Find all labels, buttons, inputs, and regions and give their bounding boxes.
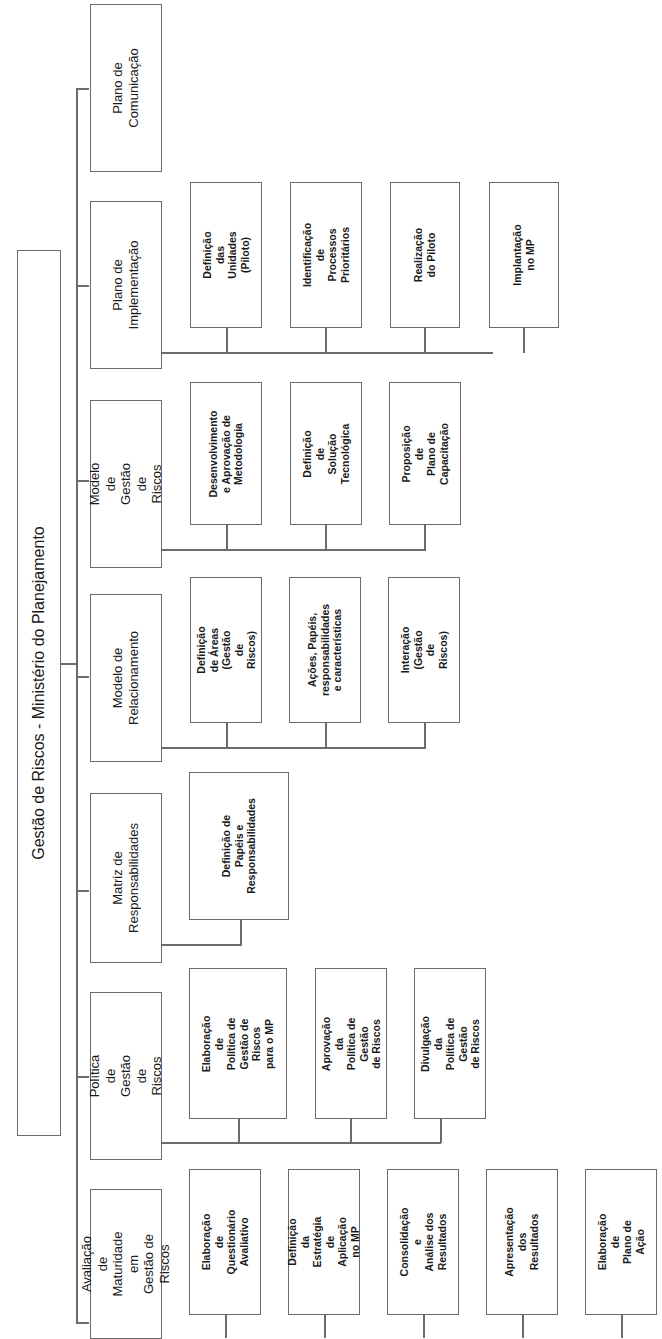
child-stub	[238, 1118, 240, 1143]
task-node: Ações, Papéis, responsabilidades e carac…	[289, 577, 361, 723]
task-label: Definição de Papéis e Responsabilidades	[220, 798, 258, 894]
branch-label: Plano de Implementação	[110, 241, 141, 330]
task-label: Elaboração de Plano de Ação	[596, 1214, 646, 1271]
task-label: Identificação de Processos Prioritários	[301, 223, 351, 287]
task-label: Divulgação da Política de Gestão de Risc…	[419, 1015, 482, 1071]
task-node: Definição de Papéis e Responsabilidades	[189, 772, 289, 920]
task-node: Realização do Piloto	[390, 182, 460, 328]
task-label: Elaboração de Política de Gestão de Risc…	[200, 1015, 276, 1072]
task-label: Interação (Gestão de Riscos)	[399, 627, 449, 674]
task-node: Definição de Áreas (Gestão de Riscos)	[190, 577, 262, 723]
bus-line	[161, 1142, 441, 1144]
task-label: Definição de Áreas (Gestão de Riscos)	[195, 626, 258, 673]
child-stub	[423, 1314, 425, 1338]
task-label: Ações, Papéis, responsabilidades e carac…	[306, 604, 344, 696]
child-stub	[325, 722, 327, 748]
bus-line	[161, 549, 426, 551]
child-stub	[350, 1118, 352, 1143]
branch-plano-implementacao: Plano de Implementação	[90, 201, 162, 369]
task-label: Definição da Estratégia de Aplicação no …	[286, 1217, 362, 1268]
root-label: Gestão de Riscos - Ministério do Planeja…	[29, 526, 48, 860]
task-node: Identificação de Processos Prioritários	[290, 182, 362, 328]
spine	[76, 88, 78, 1323]
task-node: Interação (Gestão de Riscos)	[388, 577, 460, 723]
task-node: Proposição de Plano de Capacitação	[389, 382, 461, 525]
bus-line	[161, 352, 493, 354]
task-node: Definição da Estratégia de Aplicação no …	[288, 1169, 360, 1315]
task-node: Elaboração de Plano de Ação	[585, 1169, 657, 1315]
branch-modelo-gestao-riscos: Modelo de Gestão de Riscos	[90, 400, 162, 568]
branch-label: Plano de Comunicação	[110, 48, 141, 128]
child-stub	[440, 1118, 442, 1143]
task-node: Aprovação da Política de Gestão de Risco…	[315, 968, 387, 1119]
task-label: Definição das Unidades (Piloto)	[201, 231, 251, 278]
task-node: Elaboração de Questionário Avaliativo	[189, 1169, 261, 1315]
branch-stub	[76, 676, 89, 678]
task-label: Implantação no MP	[511, 224, 536, 285]
child-stub	[226, 327, 228, 353]
bus-line	[161, 747, 426, 749]
task-label: Realização do Piloto	[412, 228, 437, 282]
branch-label: Modelo de Relacionamento	[110, 631, 141, 725]
branch-politica-gestao-riscos: Política de Gestão de Riscos	[90, 992, 162, 1160]
branch-plano-comunicacao: Plano de Comunicação	[90, 4, 162, 172]
task-label: Aprovação da Política de Gestão de Risco…	[320, 1016, 383, 1070]
child-stub	[226, 524, 228, 550]
branch-stub	[76, 88, 89, 90]
branch-label: Modelo de Gestão de Riscos	[87, 463, 165, 506]
child-stub	[325, 524, 327, 550]
child-stub	[424, 524, 426, 550]
branch-label: Avaliação de Maturidade em Gestão de Ris…	[79, 1231, 173, 1296]
branch-avaliacao-maturidade: Avaliação de Maturidade em Gestão de Ris…	[90, 1189, 162, 1339]
child-stub	[325, 327, 327, 353]
child-stub	[621, 1314, 623, 1338]
task-node: Definição de Solução Tecnológica	[290, 382, 362, 525]
task-label: Apresentação dos Resultados	[503, 1207, 541, 1276]
task-node: Divulgação da Política de Gestão de Risc…	[414, 968, 486, 1119]
child-stub	[522, 1314, 524, 1338]
task-node: Desenvolvimento e Aprovação de Metodolog…	[190, 382, 262, 525]
child-stub	[240, 919, 242, 945]
branch-stub	[76, 285, 89, 287]
task-label: Proposição de Plano de Capacitação	[400, 423, 450, 485]
root-node: Gestão de Riscos - Ministério do Planeja…	[17, 250, 61, 1136]
branch-matriz-responsabilidades: Matriz de Responsabilidades	[90, 793, 162, 963]
branch-label: Matriz de Responsabilidades	[110, 823, 141, 933]
branch-label: Política de Gestão de Riscos	[87, 1055, 165, 1098]
task-label: Elaboração de Questionário Avaliativo	[200, 1210, 250, 1275]
child-stub	[324, 1314, 326, 1338]
task-node: Implantação no MP	[489, 182, 559, 328]
task-node: Consolidação e Análise dos Resultados	[387, 1169, 459, 1315]
task-node: Definição das Unidades (Piloto)	[190, 182, 262, 328]
task-label: Consolidação e Análise dos Resultados	[398, 1208, 448, 1277]
task-label: Desenvolvimento e Aprovação de Metodolog…	[207, 410, 245, 497]
child-stub	[225, 1314, 227, 1338]
child-stub	[424, 722, 426, 748]
task-node: Elaboração de Política de Gestão de Risc…	[189, 968, 287, 1119]
child-stub	[424, 327, 426, 353]
bus-line	[161, 944, 242, 946]
task-node: Apresentação dos Resultados	[486, 1169, 558, 1315]
child-stub	[226, 722, 228, 748]
branch-stub	[76, 1322, 89, 1324]
branch-modelo-relacionamento: Modelo de Relacionamento	[90, 594, 162, 762]
branch-stub	[76, 890, 89, 892]
task-label: Definição de Solução Tecnológica	[301, 423, 351, 483]
root-connector	[60, 663, 76, 665]
child-stub	[523, 327, 525, 353]
